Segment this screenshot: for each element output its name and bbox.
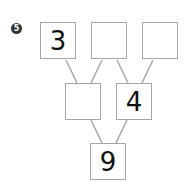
top-box-2[interactable] bbox=[91, 22, 127, 59]
bottom-box[interactable]: 9 bbox=[90, 143, 126, 180]
middle-box-1[interactable] bbox=[65, 83, 101, 120]
middle-box-2[interactable]: 4 bbox=[116, 83, 152, 120]
problem-number-badge: 5 bbox=[11, 23, 22, 34]
top-box-1[interactable]: 3 bbox=[40, 22, 76, 59]
top-box-3[interactable] bbox=[142, 22, 178, 59]
